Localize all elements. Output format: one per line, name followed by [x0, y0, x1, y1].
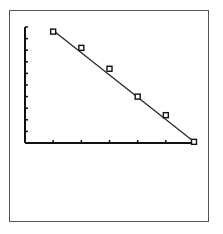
trend-line [53, 30, 194, 141]
square-marker-icon [192, 139, 197, 144]
fit-line [53, 30, 194, 141]
axes [25, 27, 194, 143]
square-marker-icon [135, 94, 140, 99]
square-marker-icon [51, 29, 56, 34]
scatter-chart [0, 0, 223, 234]
square-marker-icon [79, 45, 84, 50]
square-marker-icon [163, 113, 168, 118]
square-marker-icon [107, 66, 112, 71]
